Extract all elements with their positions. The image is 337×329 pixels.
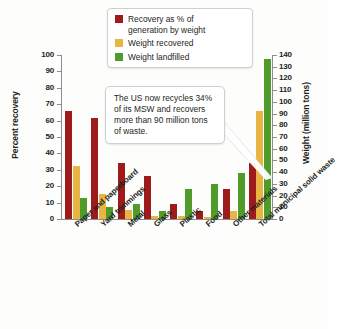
- legend-label-weight-recovered: Weight recovered: [128, 38, 193, 49]
- y-right-tickmark: [272, 125, 277, 126]
- y-right-ticklabel: 90: [279, 110, 288, 118]
- y-right-ticklabel: 60: [279, 145, 288, 153]
- legend-label-line2: generation by weight: [128, 25, 205, 35]
- y-axis-left-title: Percent recovery: [10, 83, 20, 167]
- bar: [73, 166, 80, 219]
- y-right-ticklabel: 140: [279, 51, 292, 59]
- y-axis-right-title: Weight (million tons): [301, 75, 311, 171]
- legend-item-weight-recovered: Weight recovered: [115, 38, 245, 49]
- y-right-ticklabel: 100: [279, 98, 292, 106]
- legend-label-recovery-percent: Recovery as % of generation by weight: [128, 14, 205, 35]
- y-right-tickmark: [272, 160, 277, 161]
- y-left-ticklabel: 20: [46, 182, 55, 190]
- legend-label-weight-landfilled: Weight landfilled: [128, 52, 189, 63]
- y-left-ticklabel: 60: [46, 117, 55, 125]
- y-left-ticklabel: 70: [46, 100, 55, 108]
- y-left-ticklabel: 90: [46, 67, 55, 75]
- bar-group: [223, 55, 245, 219]
- y-right-tickmark: [272, 172, 277, 173]
- y-right-ticklabel: 0: [279, 215, 283, 223]
- y-left-ticklabel: 100: [41, 51, 54, 59]
- y-right-ticklabel: 70: [279, 133, 288, 141]
- callout-box: The US now recycles 34% of its MSW and r…: [105, 86, 225, 144]
- y-left-ticklabel: 40: [46, 149, 55, 157]
- y-left-ticklabel: 30: [46, 166, 55, 174]
- callout-text: The US now recycles 34% of its MSW and r…: [114, 93, 216, 137]
- y-right-ticklabel: 80: [279, 121, 288, 129]
- y-right-ticklabel: 50: [279, 156, 288, 164]
- y-right-ticklabel: 120: [279, 74, 292, 82]
- legend-label-line1: Recovery as % of: [128, 14, 194, 24]
- y-left-ticklabel: 50: [46, 133, 55, 141]
- y-left-ticklabel: 80: [46, 84, 55, 92]
- legend-item-recovery-percent: Recovery as % of generation by weight: [115, 14, 245, 35]
- y-right-ticklabel: 30: [279, 180, 288, 188]
- legend-swatch-weight-landfilled: [115, 53, 123, 61]
- y-right-tickmark: [272, 78, 277, 79]
- y-right-ticklabel: 110: [279, 86, 291, 94]
- y-right-tickmark: [272, 137, 277, 138]
- y-right-tickmark: [272, 149, 277, 150]
- y-right-tickmark: [272, 90, 277, 91]
- y-right-ticklabel: 130: [279, 63, 292, 71]
- y-left-ticklabel: 10: [46, 199, 55, 207]
- y-left-ticklabel: 0: [50, 215, 54, 223]
- legend-item-weight-landfilled: Weight landfilled: [115, 52, 245, 63]
- y-right-tickmark: [272, 67, 277, 68]
- y-left-tickmark: [57, 219, 62, 220]
- chart-legend: Recovery as % of generation by weight We…: [107, 8, 253, 68]
- y-right-tickmark: [272, 114, 277, 115]
- y-right-ticklabel: 40: [279, 168, 288, 176]
- bar-group: [65, 55, 87, 219]
- y-right-tickmark: [272, 102, 277, 103]
- bar: [65, 111, 72, 219]
- y-right-tickmark: [272, 55, 277, 56]
- legend-swatch-recovery-percent: [115, 15, 123, 23]
- legend-swatch-weight-recovered: [115, 39, 123, 47]
